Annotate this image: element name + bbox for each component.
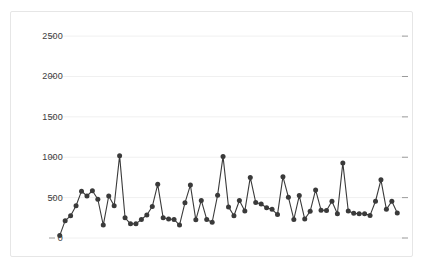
data-point-marker	[280, 174, 285, 179]
data-point-marker	[286, 195, 291, 200]
figure-caption	[12, 262, 422, 274]
data-point-marker	[226, 204, 231, 209]
y-axis-tick-label: 2000	[42, 71, 63, 81]
line-chart-plot	[11, 12, 414, 258]
data-point-marker	[74, 203, 79, 208]
data-point-marker	[90, 188, 95, 193]
data-point-marker	[106, 194, 111, 199]
data-point-marker	[188, 183, 193, 188]
data-point-marker	[346, 208, 351, 213]
data-point-marker	[357, 211, 362, 216]
data-point-marker	[128, 221, 133, 226]
data-point-marker	[395, 210, 400, 215]
data-point-marker	[204, 217, 209, 222]
data-point-marker	[324, 208, 329, 213]
data-point-marker	[231, 213, 236, 218]
y-axis-tick-label: 2500	[42, 31, 63, 41]
data-point-marker	[264, 205, 269, 210]
data-point-marker	[139, 217, 144, 222]
data-point-marker	[297, 193, 302, 198]
data-point-marker	[253, 200, 258, 205]
data-point-marker	[63, 218, 68, 223]
data-point-marker	[166, 217, 171, 222]
data-point-marker	[384, 207, 389, 212]
data-point-marker	[368, 213, 373, 218]
data-point-marker	[362, 211, 367, 216]
data-point-marker	[313, 187, 318, 192]
chart-page: 05001000150020002500	[0, 0, 431, 275]
data-point-marker	[172, 217, 177, 222]
data-point-marker	[133, 221, 138, 226]
data-point-marker	[237, 198, 242, 203]
data-point-marker	[150, 204, 155, 209]
data-point-marker	[221, 154, 226, 159]
data-point-marker	[378, 177, 383, 182]
data-point-marker	[308, 209, 313, 214]
data-point-marker	[389, 199, 394, 204]
data-point-marker	[161, 215, 166, 220]
data-point-marker	[144, 212, 149, 217]
data-point-marker	[335, 211, 340, 216]
data-point-marker	[199, 198, 204, 203]
data-point-marker	[117, 153, 122, 158]
data-point-marker	[302, 217, 307, 222]
data-point-marker	[248, 175, 253, 180]
data-point-marker	[259, 202, 264, 207]
data-point-marker	[319, 208, 324, 213]
data-point-marker	[177, 223, 182, 228]
data-point-marker	[101, 223, 106, 228]
chart-card: 05001000150020002500	[10, 11, 413, 257]
data-point-marker	[373, 199, 378, 204]
data-point-marker	[68, 213, 73, 218]
data-point-marker	[291, 217, 296, 222]
data-point-marker	[210, 220, 215, 225]
data-point-marker	[193, 217, 198, 222]
data-point-marker	[155, 182, 160, 187]
data-point-marker	[329, 199, 334, 204]
data-point-marker	[182, 200, 187, 205]
data-point-marker	[340, 160, 345, 165]
data-point-marker	[351, 211, 356, 216]
y-axis-tick-label: 0	[58, 233, 63, 243]
data-point-marker	[275, 212, 280, 217]
y-axis-tick-label: 1500	[42, 112, 63, 122]
data-point-marker	[112, 203, 117, 208]
data-point-marker	[84, 194, 89, 199]
data-point-marker	[95, 197, 100, 202]
data-point-marker	[242, 208, 247, 213]
data-point-marker	[123, 215, 128, 220]
y-axis-tick-label: 1000	[42, 152, 63, 162]
data-point-marker	[79, 189, 84, 194]
data-point-marker	[270, 207, 275, 212]
data-point-marker	[215, 193, 220, 198]
y-axis-tick-label: 500	[47, 193, 63, 203]
